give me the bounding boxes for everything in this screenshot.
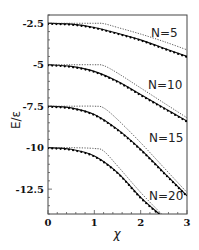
y-tick-label: -12.5 (15, 184, 44, 195)
y-tick-label: -7.5 (22, 101, 44, 112)
data-marker (116, 172, 118, 174)
data-marker (141, 95, 143, 97)
data-marker (97, 28, 99, 30)
data-marker (181, 118, 183, 120)
data-marker (141, 40, 143, 42)
data-marker (110, 166, 112, 168)
data-marker (160, 169, 162, 171)
data-marker (169, 178, 171, 180)
data-marker (131, 187, 133, 189)
data-marker (155, 210, 157, 212)
data-marker (103, 120, 105, 122)
data-marker (76, 24, 78, 26)
data-marker (96, 157, 98, 159)
data-marker (80, 68, 82, 70)
data-marker (117, 33, 119, 35)
y-tick-label: -10 (26, 142, 44, 153)
data-marker (170, 112, 172, 114)
data-marker (125, 35, 127, 37)
label-n10: N=10 (148, 78, 182, 92)
data-marker (109, 31, 111, 33)
data-marker (166, 175, 168, 177)
data-marker (108, 77, 110, 79)
data-marker (145, 154, 147, 156)
data-marker (103, 161, 105, 163)
data-marker (148, 205, 150, 207)
data-marker (88, 69, 90, 71)
data-marker (185, 56, 187, 58)
x-tick-label: 0 (45, 217, 52, 228)
data-marker (72, 66, 74, 68)
data-marker (120, 132, 122, 134)
axis-ticks (48, 15, 187, 214)
data-marker (76, 150, 78, 152)
data-marker (169, 50, 171, 52)
data-marker (84, 111, 86, 113)
data-marker (178, 116, 180, 118)
x-tick-label: 3 (184, 217, 191, 228)
data-marker (175, 184, 177, 186)
data-marker (163, 108, 165, 110)
data-marker (138, 93, 140, 95)
data-marker (113, 127, 115, 129)
data-marker (173, 51, 175, 53)
data-marker (72, 149, 74, 151)
data-marker (100, 73, 102, 75)
data-curves (47, 23, 187, 216)
data-marker (112, 79, 114, 81)
data-marker (99, 159, 101, 161)
plot-frame (48, 15, 187, 214)
data-marker (123, 134, 125, 136)
data-marker (68, 107, 70, 109)
y-axis-title: E/ε (9, 111, 23, 129)
data-marker (145, 97, 147, 99)
label-n15: N=15 (149, 131, 183, 145)
data-marker (110, 124, 112, 126)
data-marker (106, 164, 108, 166)
y-tick-label: -5 (33, 59, 44, 70)
data-marker (127, 137, 129, 139)
data-marker (181, 54, 183, 56)
data-marker (136, 193, 138, 195)
data-marker (76, 109, 78, 111)
x-tick-label: 1 (91, 217, 98, 228)
data-marker (154, 163, 156, 165)
data-marker (145, 202, 147, 204)
data-marker (113, 169, 115, 171)
data-marker (139, 196, 141, 198)
data-marker (84, 68, 86, 70)
data-marker (153, 44, 155, 46)
x-tick-label: 2 (137, 217, 144, 228)
data-marker (113, 32, 115, 34)
data-marker (161, 47, 163, 49)
data-marker (133, 190, 135, 192)
data-marker (80, 25, 82, 27)
data-marker (125, 181, 127, 183)
data-marker (92, 155, 94, 157)
data-marker (117, 129, 119, 131)
data-marker (105, 30, 107, 32)
x-axis-title: χ (112, 227, 121, 241)
solid-curve (48, 65, 187, 121)
data-marker (133, 143, 135, 145)
data-marker (107, 122, 109, 124)
data-marker (167, 110, 169, 112)
data-marker (185, 120, 187, 122)
data-marker (151, 208, 153, 210)
data-marker (159, 105, 161, 107)
data-marker (59, 148, 61, 150)
label-n20: N=20 (149, 189, 183, 203)
data-marker (151, 160, 153, 162)
y-tick-labels: -2.5-5-7.5-10-12.5 (15, 18, 44, 195)
data-marker (88, 112, 90, 114)
data-marker (122, 178, 124, 180)
data-marker (72, 24, 74, 26)
data-marker (80, 151, 82, 153)
data-marker (130, 140, 132, 142)
data-marker (148, 157, 150, 159)
dotted-curve (48, 148, 162, 214)
data-marker (68, 23, 70, 25)
data-marker (149, 43, 151, 45)
data-marker (116, 80, 118, 82)
data-marker (127, 87, 129, 89)
